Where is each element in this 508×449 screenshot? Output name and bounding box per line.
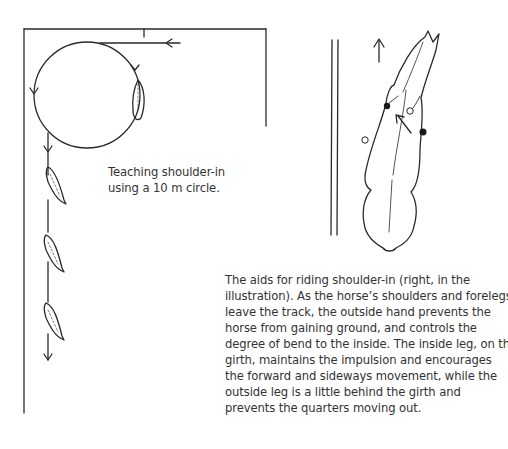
- caption-line: The aids for riding shoulder-in (right, …: [225, 272, 507, 288]
- track-path: [30, 39, 180, 360]
- horse-figure-on-circle: [133, 80, 144, 120]
- inside-hand-marker: [384, 103, 390, 109]
- caption-line: horse from gaining ground, and controls …: [225, 320, 507, 336]
- caption-aids-shoulder-in: The aids for riding shoulder-in (right, …: [225, 272, 507, 416]
- horse-figure-track-1: [46, 167, 66, 204]
- caption-line: using a 10 m circle.: [108, 180, 248, 196]
- caption-line: degree of bend to the inside. The inside…: [225, 336, 507, 352]
- inside-leg-marker: [420, 129, 427, 136]
- caption-line: Teaching shoulder-in: [108, 164, 248, 180]
- caption-line: outside leg is a little behind the girth…: [225, 384, 507, 400]
- caption-line: illustration). As the horse’s shoulders …: [225, 288, 507, 304]
- caption-line: leave the track, the outside hand preven…: [225, 304, 507, 320]
- arena-wall-lines: [331, 40, 338, 235]
- caption-line: prevents the quarters moving out.: [225, 400, 507, 416]
- outside-hand-marker: [407, 108, 413, 114]
- ten-metre-circle: [34, 42, 140, 148]
- caption-teaching-shoulder-in: Teaching shoulder-in using a 10 m circle…: [108, 164, 248, 196]
- caption-line: girth, maintains the impulsion and encou…: [225, 352, 507, 368]
- caption-line: the forward and sideways movement, while…: [225, 368, 507, 384]
- rein-line: [388, 96, 398, 104]
- horse-top-view: [363, 31, 439, 251]
- aid-markers: [362, 103, 427, 143]
- direction-arrow-up-icon: [374, 39, 384, 62]
- arrow-down-icon: [131, 65, 139, 70]
- outside-leg-marker: [362, 137, 368, 143]
- horse-figure-track-3: [44, 303, 64, 340]
- horse-figure-track-2: [44, 235, 64, 272]
